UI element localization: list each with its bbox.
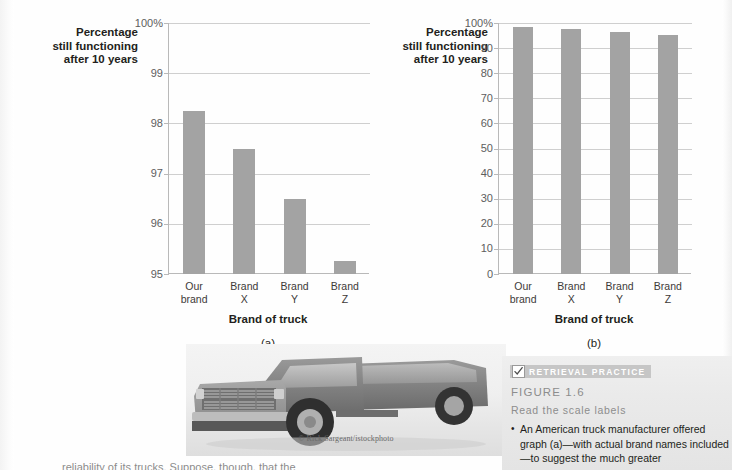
chart-b-x-axis-title: Brand of truck: [498, 313, 690, 325]
y-axis-tick-label: 97: [111, 168, 163, 179]
y-axis-tick-label: 100%: [111, 18, 163, 29]
chart-a-y-axis-label: Percentage still functioning after 10 ye…: [18, 26, 138, 67]
page-left-bleed: [0, 0, 14, 470]
y-axis-tick-label: 99: [111, 68, 163, 79]
bar: [513, 27, 533, 274]
photo-credit: © Rick Sargeant/istockphoto: [186, 434, 506, 443]
checkmark-icon: [512, 365, 525, 378]
bar: [233, 149, 255, 275]
figure-bullet-item: • An American truck manufacturer offered…: [511, 422, 729, 466]
y-axis-tick-label: 90: [441, 43, 493, 54]
x-axis-tick-label: BrandX: [547, 280, 595, 305]
figure-subtitle: Read the scale labels: [511, 404, 626, 416]
y-axis-tick: [494, 48, 499, 49]
x-axis-tick-label: Ourbrand: [499, 280, 547, 305]
y-axis-tick-label: 80: [441, 68, 493, 79]
chart-a-y-axis-label-line3: after 10 years: [18, 53, 138, 67]
retrieval-practice-panel: RETRIEVAL PRACTICE FIGURE 1.6 Read the s…: [502, 356, 732, 470]
y-axis-tick: [164, 224, 169, 225]
y-axis-tick-label: 96: [111, 218, 163, 229]
y-axis-tick-label: 0: [441, 269, 493, 280]
y-axis-tick: [164, 123, 169, 124]
y-axis-tick: [494, 123, 499, 124]
x-axis-tick-label: BrandZ: [320, 280, 370, 305]
x-axis-tick-label: Ourbrand: [169, 280, 219, 305]
gridline: [169, 73, 370, 74]
figure-number: FIGURE 1.6: [511, 386, 585, 398]
y-axis-tick-label: 70: [441, 93, 493, 104]
y-axis-tick-label: 98: [111, 118, 163, 129]
x-axis-tick-label: BrandX: [219, 280, 269, 305]
y-axis-tick: [494, 98, 499, 99]
bar: [334, 261, 356, 274]
chart-b-y-axis-label-line3: after 10 years: [368, 53, 488, 67]
y-axis-tick: [164, 23, 169, 24]
y-axis-tick-label: 40: [441, 168, 493, 179]
y-axis-tick: [494, 149, 499, 150]
x-axis-tick-label: BrandY: [270, 280, 320, 305]
chart-a-y-axis-label-line2: still functioning: [18, 40, 138, 54]
y-axis-tick: [494, 224, 499, 225]
y-axis-tick-label: 60: [441, 118, 493, 129]
page-body-text-cropped: reliability of its trucks. Suppose, thou…: [62, 461, 502, 470]
y-axis-tick: [164, 274, 169, 275]
x-axis-tick-label: BrandZ: [644, 280, 692, 305]
y-axis-tick: [164, 73, 169, 74]
y-axis-tick-label: 30: [441, 193, 493, 204]
y-axis-tick-label: 100%: [441, 18, 493, 29]
y-axis-tick-label: 10: [441, 243, 493, 254]
bar: [561, 29, 581, 274]
bar: [183, 111, 205, 274]
bar: [284, 199, 306, 274]
retrieval-practice-badge-label: RETRIEVAL PRACTICE: [529, 367, 646, 377]
x-axis-tick-label: BrandY: [596, 280, 644, 305]
y-axis-tick: [494, 249, 499, 250]
y-axis-tick-label: 50: [441, 143, 493, 154]
y-axis-tick-label: 20: [441, 218, 493, 229]
bar: [658, 35, 678, 274]
chart-b-plot-area: 100%9080706050403020100OurbrandBrandXBra…: [498, 23, 691, 274]
figure-bullet-text: An American truck manufacturer offered g…: [520, 422, 729, 466]
chart-a-plot-area: 100%9998979695OurbrandBrandXBrandYBrandZ: [168, 23, 369, 274]
bar: [610, 32, 630, 274]
gridline: [499, 23, 692, 24]
y-axis-tick: [494, 23, 499, 24]
y-axis-tick: [494, 274, 499, 275]
chart-b-panel-letter: (b): [498, 337, 690, 349]
gridline: [169, 23, 370, 24]
y-axis-tick: [164, 174, 169, 175]
y-axis-tick: [494, 199, 499, 200]
bullet-marker: •: [511, 422, 515, 437]
y-axis-tick: [494, 174, 499, 175]
y-axis-tick-label: 95: [111, 269, 163, 280]
chart-a-x-axis-title: Brand of truck: [168, 313, 368, 325]
retrieval-practice-badge: RETRIEVAL PRACTICE: [510, 365, 651, 378]
y-axis-tick: [494, 73, 499, 74]
